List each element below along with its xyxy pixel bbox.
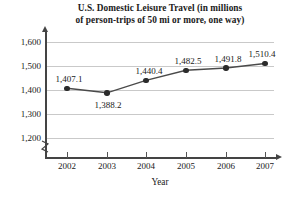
y-tick-label-1400: 1,400 xyxy=(7,86,41,95)
axis-break-icon xyxy=(39,139,53,155)
y-tick-label-1600: 1,600 xyxy=(7,38,41,47)
y-tick-label-1500: 1,500 xyxy=(7,62,41,71)
y-axis-arrow-icon xyxy=(42,26,48,32)
data-point-2006 xyxy=(223,65,228,70)
x-tick-2004 xyxy=(146,152,147,158)
x-tick-label-2006: 2006 xyxy=(206,161,246,171)
x-tick-label-2004: 2004 xyxy=(126,161,166,171)
data-label-2004: 1,440.4 xyxy=(126,66,172,76)
y-tick-label-1200: 1,200 xyxy=(7,134,41,143)
x-tick-2006 xyxy=(226,152,227,158)
y-tick-labels: 1,600 1,500 1,400 1,300 1,200 xyxy=(5,0,41,199)
gridline-1200 xyxy=(46,138,274,139)
x-tick-2002 xyxy=(67,152,68,158)
data-point-2007 xyxy=(262,61,267,66)
data-label-2003: 1,388.2 xyxy=(85,100,131,110)
data-point-2004 xyxy=(143,78,148,83)
data-point-2005 xyxy=(183,68,188,73)
x-tick-2007 xyxy=(265,152,266,158)
gridline-1400 xyxy=(46,90,274,91)
x-tick-label-2003: 2003 xyxy=(87,161,127,171)
x-axis-line xyxy=(45,157,277,159)
x-tick-label-2005: 2005 xyxy=(166,161,206,171)
x-axis-title: Year xyxy=(46,177,274,187)
chart-title-line-1: U.S. Domestic Leisure Travel (in million… xyxy=(78,3,242,13)
chart-title: U.S. Domestic Leisure Travel (in million… xyxy=(44,3,276,26)
data-label-2007: 1,510.4 xyxy=(239,49,285,59)
data-point-2002 xyxy=(64,86,69,91)
chart-title-line-2: of person-trips of 50 mi or more, one wa… xyxy=(44,15,276,27)
x-tick-label-2002: 2002 xyxy=(47,161,87,171)
gridline-1600 xyxy=(46,42,274,43)
data-label-2002: 1,407.1 xyxy=(46,74,92,84)
x-axis-arrow-icon xyxy=(276,154,282,160)
y-tick-label-1300: 1,300 xyxy=(7,110,41,119)
chart-screenshot: U.S. Domestic Leisure Travel (in million… xyxy=(0,0,289,199)
gridline-1300 xyxy=(46,114,274,115)
data-point-2003 xyxy=(104,90,109,95)
x-tick-label-2007: 2007 xyxy=(245,161,285,171)
x-tick-2005 xyxy=(186,152,187,158)
x-tick-2003 xyxy=(107,152,108,158)
